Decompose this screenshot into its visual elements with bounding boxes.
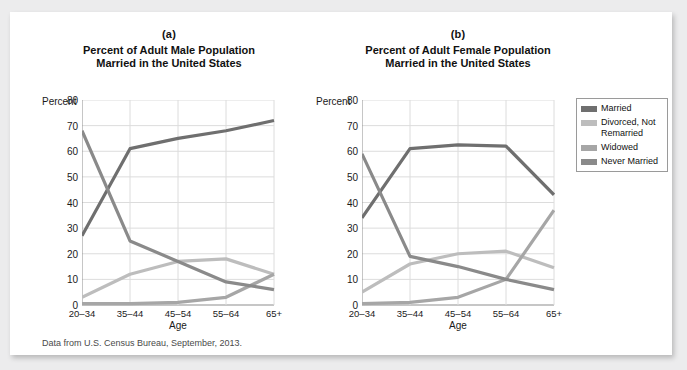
y-tick-label: 20 — [347, 248, 358, 259]
y-tick-label: 20 — [67, 248, 78, 259]
panel-title-b-line2: Married in the United States — [343, 57, 573, 70]
legend-item: Widowed — [581, 142, 663, 153]
legend-label: Divorced, Not Remarried — [601, 117, 663, 139]
panel-letter-a: (a) — [10, 28, 328, 40]
x-tick-label: 20–34 — [349, 308, 375, 319]
y-tick-label: 50 — [67, 171, 78, 182]
legend-item: Married — [581, 103, 663, 114]
panel-letter-b: (b) — [362, 28, 554, 40]
y-tick-label: 40 — [67, 197, 78, 208]
panel-title-a-line1: Percent of Adult Male Population — [83, 44, 255, 56]
x-tick-label: 35–44 — [397, 308, 423, 319]
x-tick-label: 65+ — [546, 308, 562, 319]
y-tick-label: 10 — [347, 274, 358, 285]
x-axis-label-a: Age — [82, 320, 274, 331]
y-tick-label: 30 — [67, 223, 78, 234]
chart-svg-b — [362, 100, 555, 306]
x-tick-label: 55–64 — [213, 308, 239, 319]
plot-area-a: 0102030405060708020–3435–4445–5455–6465+ — [82, 100, 274, 305]
y-tick-label: 70 — [67, 120, 78, 131]
legend: MarriedDivorced, Not RemarriedWidowedNev… — [576, 98, 668, 172]
legend-label: Widowed — [601, 142, 638, 153]
legend-swatch-icon — [581, 120, 597, 126]
panel-title-a: Percent of Adult Male Population Married… — [10, 44, 328, 70]
y-tick-label: 10 — [67, 274, 78, 285]
chart-panel-a: (a) Percent of Adult Male Population Mar… — [10, 12, 328, 355]
panel-title-b-line1: Percent of Adult Female Population — [365, 44, 550, 56]
x-tick-label: 45–54 — [165, 308, 191, 319]
source-caption: Data from U.S. Census Bureau, September,… — [42, 338, 242, 348]
legend-swatch-icon — [581, 106, 597, 112]
legend-item: Never Married — [581, 156, 663, 167]
x-axis-label-b: Age — [362, 320, 554, 331]
y-axis-label-b: Percent — [316, 96, 350, 107]
y-tick-label: 50 — [347, 171, 358, 182]
panel-title-a-line2: Married in the United States — [10, 57, 328, 70]
figure-card: (a) Percent of Adult Male Population Mar… — [10, 12, 672, 355]
y-tick-label: 70 — [347, 120, 358, 131]
y-tick-label: 80 — [67, 95, 78, 106]
y-tick-label: 80 — [347, 95, 358, 106]
y-tick-label: 60 — [347, 146, 358, 157]
legend-swatch-icon — [581, 145, 597, 151]
legend-swatch-icon — [581, 159, 597, 165]
x-tick-label: 35–44 — [117, 308, 143, 319]
x-tick-label: 65+ — [266, 308, 282, 319]
chart-svg-a — [82, 100, 275, 306]
y-tick-label: 40 — [347, 197, 358, 208]
legend-item: Divorced, Not Remarried — [581, 117, 663, 139]
legend-label: Married — [601, 103, 632, 114]
x-tick-label: 55–64 — [493, 308, 519, 319]
plot-area-b: 0102030405060708020–3435–4445–5455–6465+ — [362, 100, 554, 305]
y-tick-label: 30 — [347, 223, 358, 234]
y-tick-label: 60 — [67, 146, 78, 157]
legend-label: Never Married — [601, 156, 658, 167]
x-tick-label: 20–34 — [69, 308, 95, 319]
panel-title-b: Percent of Adult Female Population Marri… — [343, 44, 573, 70]
x-tick-label: 45–54 — [445, 308, 471, 319]
